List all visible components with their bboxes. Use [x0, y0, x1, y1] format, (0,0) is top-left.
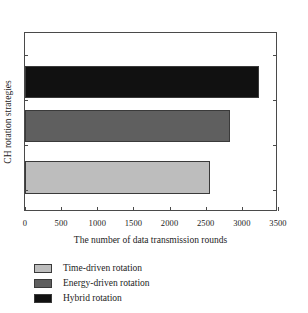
x-tick-mark: [133, 207, 134, 211]
x-tick-label: 1500: [125, 218, 142, 228]
x-tick-mark: [97, 207, 98, 211]
legend-label: Time-driven rotation: [63, 264, 142, 274]
y-axis-label-container: CH rotation strategies: [0, 32, 16, 211]
x-tick-label: 0: [23, 218, 27, 228]
x-tick-label: 1000: [89, 218, 106, 228]
bar-chart-figure: CH rotation strategies 05001000150020002…: [0, 0, 308, 313]
plot-area: 0500100015002000250030003500: [24, 32, 277, 211]
x-tick-label: 2000: [161, 218, 178, 228]
y-tick-mark: [273, 100, 277, 101]
legend-swatch: [34, 294, 52, 303]
bar-time-driven-rotation: [25, 161, 210, 194]
y-tick-mark: [24, 190, 28, 191]
y-axis-label: CH rotation strategies: [3, 80, 13, 163]
x-tick-mark: [242, 207, 243, 211]
x-tick-label: 3500: [269, 218, 286, 228]
legend-label: Hybrid rotation: [63, 294, 122, 304]
chart-legend: Time-driven rotationEnergy-driven rotati…: [34, 261, 274, 306]
y-tick-mark: [273, 190, 277, 191]
legend-label: Energy-driven rotation: [63, 279, 150, 289]
x-tick-mark: [25, 207, 26, 211]
legend-swatch: [34, 264, 52, 273]
x-tick-mark: [61, 207, 62, 211]
x-tick-mark: [206, 207, 207, 211]
x-tick-mark: [278, 207, 279, 211]
legend-item: Hybrid rotation: [34, 291, 274, 306]
x-axis-label: The number of data transmission rounds: [24, 235, 277, 245]
x-tick-mark: [170, 207, 171, 211]
y-tick-mark: [273, 55, 277, 56]
legend-swatch: [34, 279, 52, 288]
legend-item: Energy-driven rotation: [34, 276, 274, 291]
y-tick-mark: [24, 55, 28, 56]
y-tick-mark: [273, 145, 277, 146]
x-tick-label: 500: [55, 218, 68, 228]
x-tick-label: 2500: [197, 218, 214, 228]
y-tick-mark: [24, 100, 28, 101]
bar-hybrid-rotation: [25, 66, 259, 98]
legend-item: Time-driven rotation: [34, 261, 274, 276]
x-tick-label: 3000: [233, 218, 250, 228]
y-tick-mark: [24, 145, 28, 146]
bar-energy-driven-rotation: [25, 110, 230, 142]
